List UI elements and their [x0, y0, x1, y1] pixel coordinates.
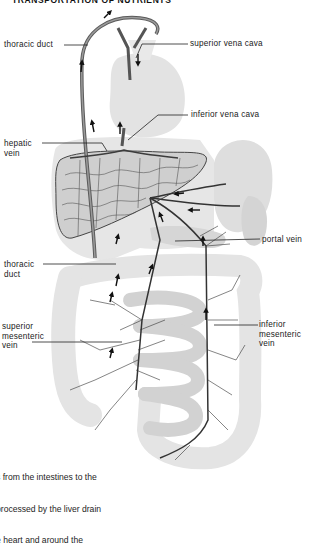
- caption-line: s from the intestines to the: [0, 472, 101, 483]
- caption-line: processed by the liver drain: [0, 504, 101, 515]
- label-superior-mesenteric-vein: superior mesenteric vein: [2, 322, 44, 351]
- caption-text: s from the intestines to the processed b…: [0, 451, 101, 547]
- label-inferior-vena-cava: inferior vena cava: [191, 110, 259, 120]
- label-thoracic-duct-top: thoracic duct: [4, 40, 53, 50]
- stomach-shape: [212, 140, 272, 246]
- label-thoracic-duct-lower: thoracic duct: [4, 260, 34, 279]
- heart-shape: [110, 40, 185, 137]
- label-inferior-mesenteric-vein: inferior mesenteric vein: [259, 320, 301, 349]
- label-portal-vein: portal vein: [262, 235, 302, 245]
- label-superior-vena-cava: superior vena cava: [190, 39, 263, 49]
- caption-line: e heart and around the: [0, 535, 101, 546]
- label-hepatic-vein: hepatic vein: [4, 139, 32, 158]
